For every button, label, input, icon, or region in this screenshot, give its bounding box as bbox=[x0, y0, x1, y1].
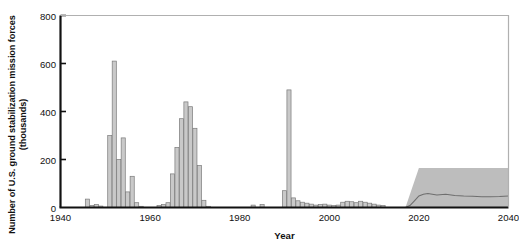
bar bbox=[112, 61, 116, 207]
bar bbox=[170, 174, 174, 208]
y-tick-label: 600 bbox=[24, 58, 56, 69]
bar bbox=[126, 192, 130, 208]
bar-series bbox=[85, 61, 385, 207]
bar bbox=[85, 199, 89, 207]
x-tick-label: 1940 bbox=[50, 212, 71, 223]
chart-figure: Number of U.S. ground stabilization miss… bbox=[0, 0, 519, 249]
plot-area bbox=[0, 0, 519, 249]
y-tick-label: 400 bbox=[24, 106, 56, 117]
bar bbox=[282, 191, 286, 208]
projection-band bbox=[405, 168, 508, 208]
bar bbox=[130, 176, 134, 207]
y-tick-label: 800 bbox=[24, 10, 56, 21]
bar bbox=[287, 90, 291, 208]
bar bbox=[121, 138, 125, 208]
bar bbox=[179, 119, 183, 208]
x-axis-label: Year bbox=[60, 230, 509, 241]
bar bbox=[175, 148, 179, 208]
bar bbox=[188, 107, 192, 208]
bar bbox=[291, 198, 295, 208]
x-tick-label: 1960 bbox=[139, 212, 160, 223]
bar bbox=[184, 102, 188, 208]
bar bbox=[117, 160, 121, 208]
bar bbox=[197, 166, 201, 208]
x-tick-label: 2020 bbox=[408, 212, 429, 223]
bar bbox=[193, 128, 197, 207]
y-tick-label: 200 bbox=[24, 154, 56, 165]
x-tick-label: 2040 bbox=[498, 212, 519, 223]
x-tick-label: 1980 bbox=[229, 212, 250, 223]
bar bbox=[108, 136, 112, 208]
projection-band-series bbox=[405, 168, 508, 208]
x-tick-label: 2000 bbox=[319, 212, 340, 223]
